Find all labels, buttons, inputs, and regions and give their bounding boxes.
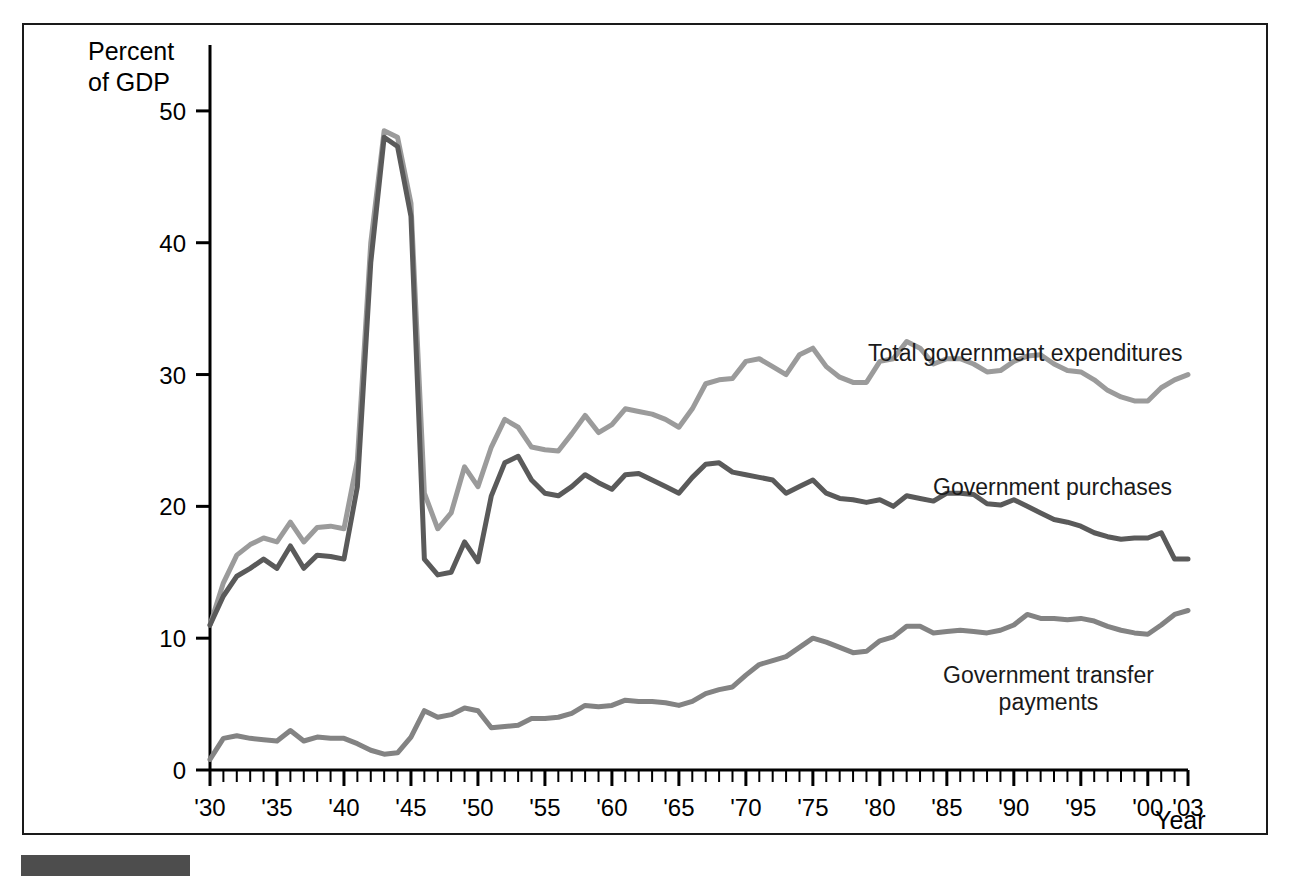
svg-text:'90: '90 — [998, 794, 1029, 821]
svg-text:40: 40 — [159, 230, 186, 257]
svg-text:'45: '45 — [395, 794, 426, 821]
svg-text:'50: '50 — [462, 794, 493, 821]
svg-text:'75: '75 — [797, 794, 828, 821]
svg-text:'30: '30 — [194, 794, 225, 821]
svg-text:'40: '40 — [328, 794, 359, 821]
svg-text:20: 20 — [159, 493, 186, 520]
svg-text:'85: '85 — [931, 794, 962, 821]
svg-text:'70: '70 — [730, 794, 761, 821]
svg-text:'80: '80 — [864, 794, 895, 821]
series-label-total-government-expenditures: Total government expenditures — [868, 340, 1183, 367]
y-axis-title: Percent of GDP — [88, 36, 174, 97]
svg-text:'95: '95 — [1065, 794, 1096, 821]
svg-text:10: 10 — [159, 625, 186, 652]
series-label-government-transfer-payments: Government transfer payments — [943, 662, 1154, 716]
svg-text:50: 50 — [159, 98, 186, 125]
svg-text:0: 0 — [173, 757, 186, 784]
svg-text:30: 30 — [159, 362, 186, 389]
figure-root: 01020304050'30'35'40'45'50'55'60'65'70'7… — [0, 0, 1296, 883]
svg-text:'35: '35 — [261, 794, 292, 821]
footer-accent-bar — [21, 855, 190, 876]
svg-text:'60: '60 — [596, 794, 627, 821]
svg-text:'55: '55 — [529, 794, 560, 821]
series-label-government-purchases: Government purchases — [933, 474, 1172, 501]
x-axis-title: Year — [1155, 805, 1206, 836]
chart-plot-area: 01020304050'30'35'40'45'50'55'60'65'70'7… — [0, 0, 1296, 883]
svg-text:'65: '65 — [663, 794, 694, 821]
